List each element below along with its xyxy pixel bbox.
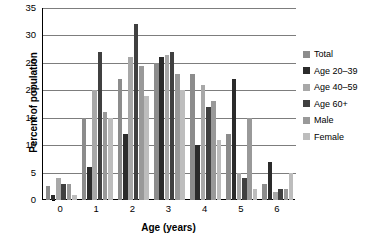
- bar: [190, 74, 195, 200]
- x-tick-label: 3: [154, 203, 184, 214]
- bar: [253, 189, 258, 200]
- bar: [289, 173, 294, 200]
- x-tick-label: 2: [117, 203, 147, 214]
- legend-label: Total: [314, 49, 333, 59]
- y-tick-label: 20: [12, 86, 36, 96]
- y-tick-label: 15: [12, 113, 36, 123]
- bar: [284, 189, 289, 200]
- bar-group: [79, 8, 115, 200]
- legend-swatch-icon: [303, 51, 310, 58]
- bar: [46, 186, 51, 200]
- bar: [247, 118, 252, 200]
- bar: [67, 184, 72, 200]
- bar: [82, 118, 87, 200]
- plot-area: [42, 8, 295, 200]
- y-tick-label: 30: [12, 31, 36, 41]
- x-axis-tick-labels: 0123456: [42, 203, 295, 217]
- bar: [154, 63, 159, 200]
- bar: [262, 184, 267, 200]
- bar: [206, 107, 211, 200]
- bar: [98, 52, 103, 200]
- bar: [134, 24, 139, 200]
- legend-label: Male: [314, 115, 334, 125]
- bar-chart: Percent of population 05101520253035 012…: [0, 0, 386, 248]
- bar: [201, 85, 206, 200]
- bar-group: [188, 8, 224, 200]
- bar: [278, 189, 283, 200]
- bar: [87, 167, 92, 200]
- legend-swatch-icon: [303, 84, 310, 91]
- x-tick-label: 1: [81, 203, 111, 214]
- y-tick-label: 25: [12, 58, 36, 68]
- legend-item: Female: [303, 129, 385, 146]
- legend-item: Age 40–59: [303, 79, 385, 96]
- bar: [144, 96, 149, 200]
- bar: [118, 79, 123, 200]
- x-tick-label: 4: [190, 203, 220, 214]
- bar-group: [260, 8, 296, 200]
- legend-swatch-icon: [303, 100, 310, 107]
- bar: [103, 112, 108, 200]
- legend-item: Male: [303, 112, 385, 129]
- bar: [51, 195, 56, 200]
- x-tick-label: 0: [45, 203, 75, 214]
- bar: [123, 134, 128, 200]
- x-tick-label: 6: [262, 203, 292, 214]
- bar-group: [224, 8, 260, 200]
- bar: [237, 173, 242, 200]
- bar: [61, 184, 66, 200]
- y-tick-label: 10: [12, 140, 36, 150]
- bars-layer: [43, 8, 296, 200]
- y-axis-tick-labels: 05101520253035: [12, 8, 36, 200]
- bar: [108, 118, 113, 200]
- y-tick-mark: [52, 200, 55, 201]
- bar: [180, 90, 185, 200]
- legend-item: Total: [303, 46, 385, 63]
- y-tick-label: 5: [12, 168, 36, 178]
- bar: [195, 145, 200, 200]
- legend-label: Age 20–39: [314, 66, 358, 76]
- bar: [242, 178, 247, 200]
- y-tick-label: 35: [12, 3, 36, 13]
- bar: [211, 101, 216, 200]
- bar: [72, 195, 77, 200]
- bar: [175, 74, 180, 200]
- bar-group: [43, 8, 79, 200]
- bar: [128, 57, 133, 200]
- bar: [165, 55, 170, 200]
- legend-swatch-icon: [303, 133, 310, 140]
- bar: [273, 192, 278, 200]
- legend-swatch-icon: [303, 117, 310, 124]
- bar: [217, 140, 222, 200]
- legend-label: Age 60+: [314, 99, 348, 109]
- legend-swatch-icon: [303, 67, 310, 74]
- bar: [159, 57, 164, 200]
- bar-group: [151, 8, 187, 200]
- y-tick-label: 0: [12, 195, 36, 205]
- legend: TotalAge 20–39Age 40–59Age 60+MaleFemale: [303, 46, 385, 145]
- bar: [232, 79, 237, 200]
- legend-label: Age 40–59: [314, 82, 358, 92]
- x-axis-title: Age (years): [42, 222, 295, 233]
- bar: [170, 52, 175, 200]
- bar: [56, 178, 61, 200]
- bar-group: [115, 8, 151, 200]
- x-tick-label: 5: [226, 203, 256, 214]
- bar: [139, 66, 144, 200]
- legend-item: Age 60+: [303, 96, 385, 113]
- legend-item: Age 20–39: [303, 63, 385, 80]
- bar: [226, 134, 231, 200]
- legend-label: Female: [314, 132, 344, 142]
- bar: [268, 162, 273, 200]
- bar: [92, 90, 97, 200]
